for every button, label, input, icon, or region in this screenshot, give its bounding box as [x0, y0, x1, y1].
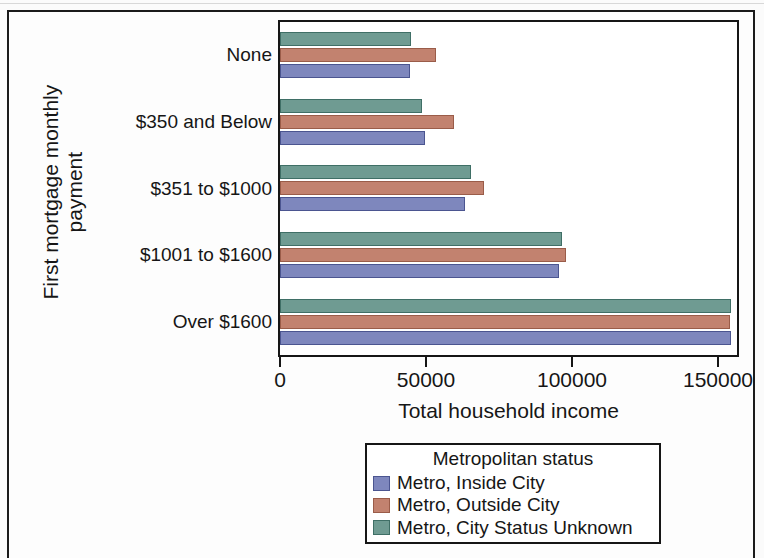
legend-color-swatch — [373, 476, 390, 491]
x-axis-tick-label: 50000 — [397, 368, 455, 392]
bar — [280, 197, 465, 211]
bar — [280, 248, 566, 262]
bar — [280, 131, 425, 145]
bar-group — [280, 89, 737, 156]
bar — [280, 264, 559, 278]
bar — [280, 165, 471, 179]
legend-item: Metro, Outside City — [367, 494, 659, 516]
y-axis-tick-label: $350 and Below — [22, 112, 272, 131]
y-axis-tick-label: None — [22, 45, 272, 64]
x-axis-tick-label: 100000 — [537, 368, 607, 392]
y-axis-tick-label: $1001 to $1600 — [22, 245, 272, 264]
bars-layer — [280, 22, 737, 355]
bar-group — [280, 222, 737, 289]
legend-item-label: Metro, City Status Unknown — [397, 517, 632, 539]
x-axis-tick-mark — [425, 357, 427, 367]
bar — [280, 32, 411, 46]
bar-group — [280, 155, 737, 222]
bar — [280, 64, 410, 78]
bar — [280, 115, 454, 129]
y-axis-category-labels: None$350 and Below$351 to $1000$1001 to … — [14, 0, 272, 558]
legend-color-swatch — [373, 520, 390, 535]
x-axis-tick-mark — [279, 357, 281, 367]
bar — [280, 331, 731, 345]
x-axis-tick-mark — [571, 357, 573, 367]
y-axis-tick-label: Over $1600 — [22, 312, 272, 331]
x-axis-tick-label: 150000 — [683, 368, 753, 392]
bar — [280, 48, 436, 62]
x-axis-title: Total household income — [278, 399, 739, 423]
legend-title: Metropolitan status — [367, 447, 659, 472]
bar-chart: First mortgage monthly payment None$350 … — [0, 0, 764, 558]
y-axis-tick-label: $351 to $1000 — [22, 179, 272, 198]
x-axis-tick-label: 0 — [274, 368, 286, 392]
chart-legend: Metropolitan status Metro, Inside CityMe… — [365, 443, 661, 544]
bar-group — [280, 288, 737, 355]
legend-item: Metro, Inside City — [367, 472, 659, 494]
legend-color-swatch — [373, 498, 390, 513]
x-axis-tick-mark — [717, 357, 719, 367]
legend-item-label: Metro, Inside City — [397, 472, 545, 494]
bar-group — [280, 22, 737, 89]
bar — [280, 315, 730, 329]
legend-items: Metro, Inside CityMetro, Outside CityMet… — [367, 472, 659, 539]
bar — [280, 232, 562, 246]
legend-item-label: Metro, Outside City — [397, 494, 560, 516]
bar — [280, 181, 484, 195]
bar — [280, 299, 731, 313]
bar — [280, 99, 422, 113]
legend-item: Metro, City Status Unknown — [367, 517, 659, 539]
